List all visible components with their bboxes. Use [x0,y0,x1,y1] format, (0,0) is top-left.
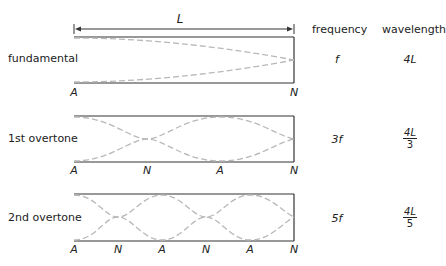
wavelength-header: wavelength [382,23,446,36]
frequency-2nd-overtone: 5f [332,212,343,225]
wavelength-denominator: 5 [407,218,413,229]
length-dimension-arrow [74,24,294,34]
length-label: L [177,12,184,26]
wavelength-numerator: 4L [403,206,417,218]
frequency-1st-overtone: 3f [332,133,343,146]
wavelength-fundamental: 4L [403,53,416,66]
node-label: N [143,164,151,177]
node-label: N [290,243,298,256]
node-label: A [158,243,166,256]
node-label: N [114,243,122,256]
tube-fundamental [74,37,294,83]
node-label: A [246,243,254,256]
node-label: A [70,164,78,177]
tube-1st-overtone [74,116,294,162]
frequency-header: frequency [312,23,367,36]
mode-label-2nd-overtone: 2nd overtone [8,211,82,224]
frequency-fundamental: f [335,53,339,66]
node-label: A [70,86,78,99]
wavelength-numerator: 4L [403,127,417,139]
wavelength-1st-overtone: 4L 3 [403,127,417,150]
node-label: N [290,164,298,177]
node-label: A [70,243,78,256]
mode-label-fundamental: fundamental [8,52,78,65]
node-label: N [202,243,210,256]
node-label: N [290,86,298,99]
mode-label-1st-overtone: 1st overtone [8,132,78,145]
wavelength-2nd-overtone: 4L 5 [403,206,417,229]
wavelength-denominator: 3 [407,139,413,150]
node-label: A [216,164,224,177]
tube-2nd-overtone [74,194,294,241]
